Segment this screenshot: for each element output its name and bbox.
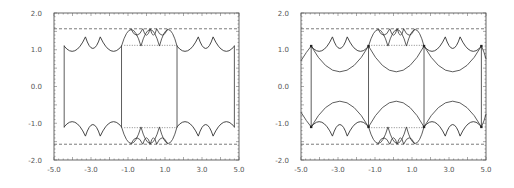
x-tick-label: 1.0 [406, 166, 417, 174]
vertex-marker [423, 126, 425, 128]
scallop-arc [311, 122, 332, 136]
scallop-arc [424, 37, 445, 51]
inner-arc [157, 29, 168, 35]
x-tick-label: -3.0 [84, 166, 98, 174]
y-tick-label: 0.0 [31, 83, 42, 91]
y-tick-label: -2.0 [275, 157, 289, 165]
inner-arc [157, 138, 168, 144]
inner-arc [159, 127, 177, 144]
vertex-marker [480, 45, 482, 47]
scallop-arc [100, 122, 121, 136]
scallop-arc [177, 122, 198, 136]
scallop-arc [177, 37, 198, 51]
inner-arc [406, 127, 424, 144]
scallop-arc [198, 125, 213, 137]
x-tick-label: 3.0 [443, 166, 454, 174]
scallop-arc [213, 37, 234, 51]
large-arc [424, 46, 481, 72]
y-tick-label: -2.0 [28, 157, 42, 165]
scallop-arc [332, 37, 347, 49]
x-tick-label: -5.0 [47, 166, 61, 174]
vertex-marker [367, 45, 369, 47]
scallop-arc [424, 122, 445, 136]
large-arc [424, 101, 481, 127]
scallop-arc [445, 37, 460, 49]
large-arc [369, 46, 425, 72]
inner-arc [369, 30, 388, 47]
scallop-arc [460, 37, 481, 51]
scallop-arc [64, 37, 85, 51]
scallop-arc [347, 122, 368, 136]
scallop-arc [311, 37, 332, 51]
x-tick-label: 3.0 [196, 166, 207, 174]
vertex-marker [310, 45, 312, 47]
vertex-marker [310, 126, 312, 128]
scallop-arc [460, 122, 481, 136]
y-tick-label: 1.0 [278, 46, 289, 54]
y-tick-label: 1.0 [31, 46, 42, 54]
large-arc [311, 101, 368, 127]
scallop-arc [100, 37, 121, 51]
scallop-arc [332, 125, 347, 137]
x-tick-label: 1.0 [159, 166, 170, 174]
y-tick-label: -1.0 [275, 120, 289, 128]
inner-arc [406, 30, 424, 47]
vertex-marker [367, 126, 369, 128]
scallop-arc [64, 122, 85, 136]
x-tick-label: -1.0 [121, 166, 135, 174]
inner-arc [404, 138, 415, 144]
scallop-arc [198, 37, 213, 49]
vertex-marker [480, 126, 482, 128]
scallop-arc [347, 37, 368, 51]
x-tick-label: -5.0 [294, 166, 308, 174]
inner-arc [369, 127, 388, 144]
inner-arc [404, 29, 415, 35]
inner-arc [159, 30, 177, 47]
y-tick-label: 2.0 [31, 10, 42, 18]
figure: -5.0-3.0-1.01.03.05.02.01.00.0-1.0-2.0 -… [0, 0, 514, 188]
x-tick-label: -3.0 [331, 166, 345, 174]
y-tick-label: 2.0 [278, 10, 289, 18]
large-arc [311, 46, 368, 72]
x-tick-label: -1.0 [368, 166, 382, 174]
left-plot: -5.0-3.0-1.01.03.05.02.01.00.0-1.0-2.0 [28, 10, 244, 175]
x-tick-label: 5.0 [480, 166, 491, 174]
y-tick-label: 0.0 [278, 83, 289, 91]
scallop-arc [85, 125, 100, 137]
y-tick-label: -1.0 [28, 120, 42, 128]
scallop-arc [445, 125, 460, 137]
x-tick-label: 5.0 [233, 166, 244, 174]
scallop-arc [85, 37, 100, 49]
inner-arc [122, 30, 141, 47]
right-plot: -5.0-3.0-1.01.03.05.02.01.00.0-1.0-2.0 [275, 10, 491, 175]
inner-arc [122, 127, 141, 144]
vertex-marker [423, 45, 425, 47]
large-arc [369, 101, 425, 127]
scallop-arc [213, 122, 234, 136]
